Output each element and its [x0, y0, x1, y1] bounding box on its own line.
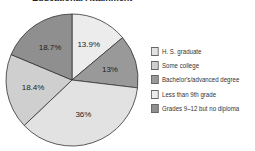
slice-label: 18.4%	[22, 83, 45, 92]
legend-swatch	[151, 90, 159, 99]
slice-label: 18.7%	[39, 43, 62, 52]
legend-swatch	[151, 75, 159, 84]
legend-item: Less than 9th grade	[151, 87, 239, 101]
legend: H. S. graduate Some college Bachelor's/a…	[151, 44, 255, 115]
legend-item: Grades 9–12 but no diploma	[151, 101, 239, 115]
legend-item: Bachelor's/advanced degree	[151, 73, 239, 87]
slice-label: 36%	[75, 110, 91, 119]
slice-label: 13%	[102, 65, 118, 74]
legend-swatch	[151, 47, 159, 56]
slice-label: 13.9%	[77, 40, 100, 49]
legend-swatch	[151, 61, 159, 70]
legend-item: H. S. graduate	[151, 44, 239, 58]
legend-swatch	[151, 104, 159, 113]
pie-chart: 13.9%13%36%18.4%18.7%	[0, 0, 150, 151]
legend-item: Some college	[151, 58, 239, 72]
